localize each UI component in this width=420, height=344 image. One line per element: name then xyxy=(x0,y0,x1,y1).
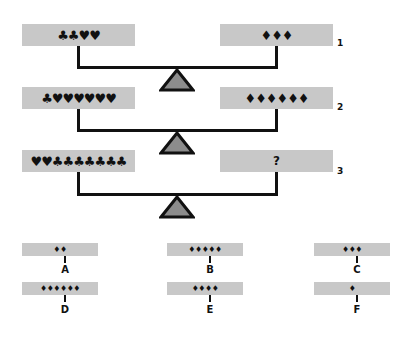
right-pan-1-symbols: ♦♦♦ xyxy=(261,28,293,43)
right-pan-3: ? xyxy=(220,150,333,172)
option-f-label[interactable]: F xyxy=(347,304,367,315)
left-pan-3: ♥♥♣♣♣♣♣♣♣ xyxy=(22,150,135,172)
option-b-stem xyxy=(209,256,211,263)
option-a-symbols: ♦♦ xyxy=(53,245,66,254)
right-stem-3 xyxy=(275,172,278,195)
right-stem-1 xyxy=(275,46,278,68)
option-c-bar[interactable]: ♦♦♦ xyxy=(314,243,390,256)
right-pan-2-symbols: ♦♦♦♦♦♦ xyxy=(245,91,309,106)
option-e-bar[interactable]: ♦♦♦♦ xyxy=(167,282,243,295)
left-stem-2 xyxy=(77,109,80,131)
option-f-bar[interactable]: ♦ xyxy=(314,282,390,295)
left-pan-1: ♣♣♥♥ xyxy=(22,24,135,46)
option-f-stem xyxy=(356,295,358,302)
right-pan-2: ♦♦♦♦♦♦ xyxy=(220,87,333,109)
row-number-1: 1 xyxy=(337,38,343,48)
left-stem-1 xyxy=(77,46,80,68)
row-number-2: 2 xyxy=(337,102,343,112)
option-d-symbols: ♦♦♦♦♦♦ xyxy=(40,284,80,293)
option-e-symbols: ♦♦♦♦ xyxy=(192,284,219,293)
option-d-bar[interactable]: ♦♦♦♦♦♦ xyxy=(22,282,98,295)
left-pan-2-symbols: ♣♥♥♥♥♥♥ xyxy=(41,91,116,106)
option-c-stem xyxy=(356,256,358,263)
option-a-label[interactable]: A xyxy=(55,264,75,275)
right-pan-3-question-mark: ? xyxy=(273,154,280,168)
right-pan-1: ♦♦♦ xyxy=(220,24,333,46)
left-pan-1-symbols: ♣♣♥♥ xyxy=(57,28,100,43)
option-d-stem xyxy=(64,295,66,302)
right-stem-2 xyxy=(275,109,278,131)
option-d-label[interactable]: D xyxy=(55,304,75,315)
option-b-symbols: ♦♦♦♦♦ xyxy=(188,245,221,254)
left-pan-2: ♣♥♥♥♥♥♥ xyxy=(22,87,135,109)
option-c-symbols: ♦♦♦ xyxy=(342,245,362,254)
option-f-symbols: ♦ xyxy=(349,284,356,293)
option-a-stem xyxy=(64,256,66,263)
option-e-stem xyxy=(209,295,211,302)
row-number-3: 3 xyxy=(337,166,343,176)
fulcrum-triangle-icon xyxy=(159,195,195,219)
fulcrum-triangle-icon xyxy=(159,68,195,92)
option-e-label[interactable]: E xyxy=(200,304,220,315)
option-b-label[interactable]: B xyxy=(200,264,220,275)
fulcrum-triangle-icon xyxy=(159,131,195,155)
option-a-bar[interactable]: ♦♦ xyxy=(22,243,98,256)
left-stem-3 xyxy=(77,172,80,195)
option-b-bar[interactable]: ♦♦♦♦♦ xyxy=(167,243,243,256)
option-c-label[interactable]: C xyxy=(347,264,367,275)
left-pan-3-symbols: ♥♥♣♣♣♣♣♣♣ xyxy=(31,154,127,169)
